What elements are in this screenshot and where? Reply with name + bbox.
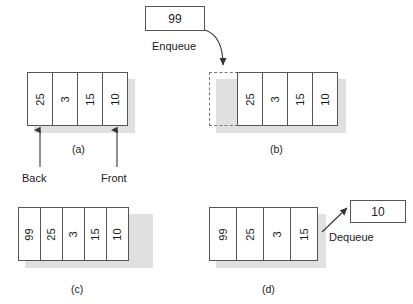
panel-c-cell-1: 25 (40, 207, 63, 261)
panel-a-cell-0: 25 (27, 72, 53, 126)
panel-c-cell-3: 15 (84, 207, 107, 261)
panel-c-cell-3-value: 15 (90, 228, 101, 241)
dequeue-value-text: 10 (371, 205, 384, 219)
panel-d-cell-0: 99 (209, 207, 237, 261)
panel-a-queue: 25 3 15 10 (27, 72, 128, 126)
panel-a-cell-1: 3 (52, 72, 78, 126)
panel-d-cell-1: 25 (236, 207, 264, 261)
panel-a-caption: (a) (72, 143, 85, 155)
dequeue-value-box: 10 (350, 200, 406, 223)
panel-d-cell-2: 3 (263, 207, 291, 261)
panel-d-cell-0-value: 99 (218, 228, 229, 241)
panel-c-cell-0: 99 (18, 207, 41, 261)
panel-b-cell-2-value: 15 (295, 93, 306, 106)
panel-a-cell-2-value: 15 (85, 93, 96, 106)
back-pointer-label: Back (22, 172, 46, 184)
panel-d-caption: (d) (262, 283, 275, 295)
panel-c-cell-4-value: 10 (112, 228, 123, 241)
panel-c-cell-2-value: 3 (68, 231, 79, 237)
panel-d-cell-3: 15 (290, 207, 318, 261)
panel-c-cell-2: 3 (62, 207, 85, 261)
panel-b-cell-3: 10 (312, 72, 338, 126)
panel-d-cell-2-value: 3 (272, 231, 283, 237)
panel-a-cell-3-value: 10 (110, 93, 121, 106)
panel-b-queue: 25 3 15 10 (209, 72, 338, 126)
panel-b-cell-3-value: 10 (320, 93, 331, 106)
panel-a-cell-0-value: 25 (35, 93, 46, 106)
panel-b-caption: (b) (270, 143, 283, 155)
panel-d-queue: 99 25 3 15 (209, 207, 318, 261)
front-pointer-label: Front (101, 172, 127, 184)
panel-b-cell-1: 3 (262, 72, 288, 126)
panel-b-cell-1-value: 3 (270, 96, 281, 102)
panel-c-cell-4: 10 (106, 207, 129, 261)
queue-diagram-figure: 99 Enqueue 25 3 15 10 (a) Back Front 25 … (0, 0, 413, 304)
panel-b-cell-0-value: 25 (245, 93, 256, 106)
panel-b-cell-0: 25 (237, 72, 263, 126)
panel-b-empty-slot (209, 72, 238, 126)
enqueue-value-box: 99 (145, 6, 205, 31)
enqueue-arrow (205, 30, 223, 65)
panel-c-caption: (c) (71, 283, 83, 295)
enqueue-operation-label: Enqueue (152, 40, 196, 52)
dequeue-operation-label: Dequeue (329, 231, 374, 243)
enqueue-value-text: 99 (168, 12, 181, 26)
panel-c-queue: 99 25 3 15 10 (18, 207, 129, 261)
panel-c-cell-0-value: 99 (24, 228, 35, 241)
panel-a-cell-1-value: 3 (60, 96, 71, 102)
panel-d-cell-1-value: 25 (245, 228, 256, 241)
panel-a-cell-2: 15 (77, 72, 103, 126)
panel-b-cell-2: 15 (287, 72, 313, 126)
panel-c-cell-1-value: 25 (46, 228, 57, 241)
panel-a-cell-3: 10 (102, 72, 128, 126)
panel-d-cell-3-value: 15 (299, 228, 310, 241)
